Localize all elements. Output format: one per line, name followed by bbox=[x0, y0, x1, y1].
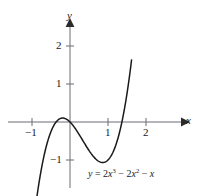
xtick-label-1: 1 bbox=[105, 127, 111, 138]
ytick-label-neg1: −1 bbox=[50, 154, 62, 165]
equation-term3-var: x bbox=[150, 168, 154, 179]
ytick-label-2: 2 bbox=[56, 40, 62, 51]
equation-label: y = 2x3 − 2x2 − x bbox=[88, 169, 154, 179]
x-axis-label: x bbox=[186, 115, 191, 126]
xtick-label-neg1: −1 bbox=[25, 127, 37, 138]
plot-canvas bbox=[0, 0, 199, 196]
ytick-label-1: 1 bbox=[56, 78, 62, 89]
graph-figure: −1 1 2 2 1 −1 x y y = 2x3 − 2x2 − x bbox=[0, 0, 199, 196]
y-axis-label: y bbox=[67, 10, 72, 21]
xtick-label-2: 2 bbox=[143, 127, 149, 138]
